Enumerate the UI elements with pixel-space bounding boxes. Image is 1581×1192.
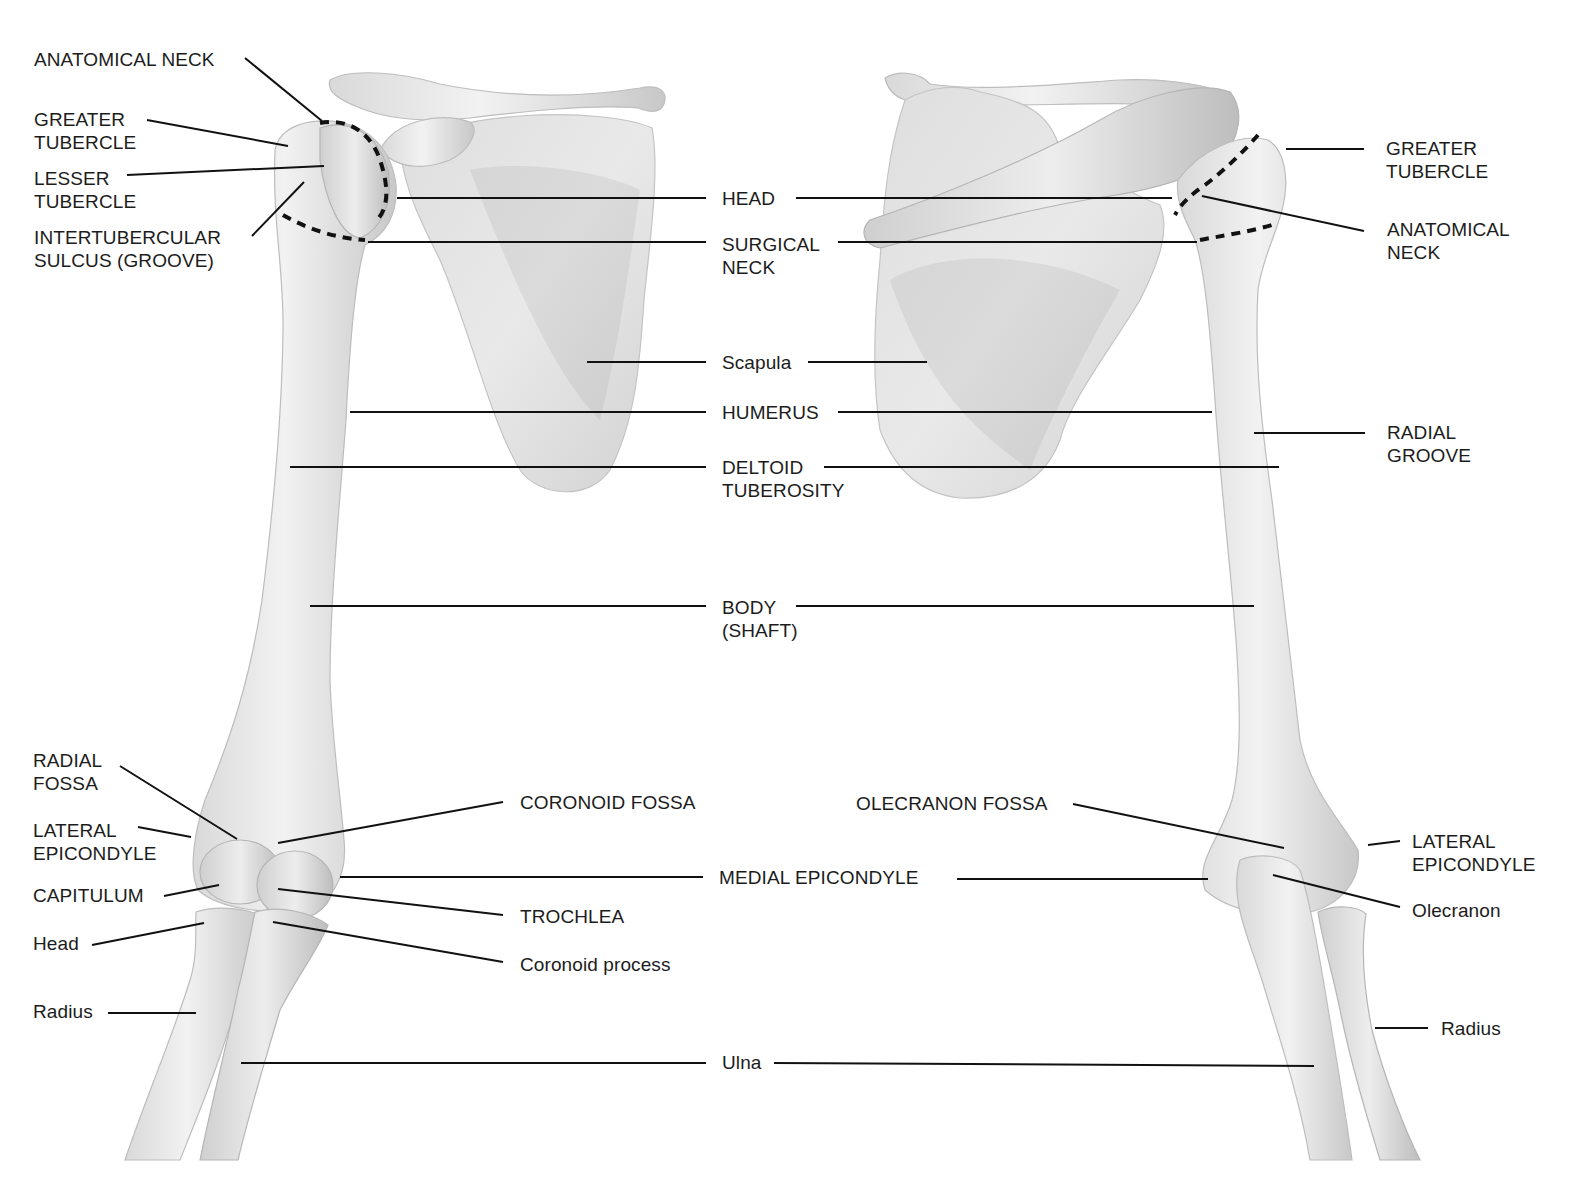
label-deltoid-tuberosity: DELTOID TUBEROSITY bbox=[722, 456, 844, 502]
label-radial-groove: RADIAL GROOVE bbox=[1387, 421, 1471, 467]
label-radial-fossa: RADIAL FOSSA bbox=[33, 749, 102, 795]
label-radius-right: Radius bbox=[1441, 1017, 1501, 1040]
label-radius-left: Radius bbox=[33, 1000, 93, 1023]
left-clavicle bbox=[329, 73, 665, 120]
right-arm-posterior bbox=[864, 73, 1420, 1160]
label-greater-tubercle-left: GREATER TUBERCLE bbox=[34, 108, 136, 154]
label-lateral-epicondyle-left: LATERAL EPICONDYLE bbox=[33, 819, 156, 865]
right-humerus bbox=[1177, 138, 1358, 914]
label-coronoid-fossa: CORONOID FOSSA bbox=[520, 791, 696, 814]
label-anatomical-neck-left: ANATOMICAL NECK bbox=[34, 48, 215, 71]
left-trochlea bbox=[257, 851, 333, 919]
label-head: HEAD bbox=[722, 187, 775, 210]
label-anatomical-neck-right: ANATOMICAL NECK bbox=[1387, 218, 1510, 264]
label-olecranon: Olecranon bbox=[1412, 899, 1501, 922]
label-trochlea: TROCHLEA bbox=[520, 905, 624, 928]
label-coronoid-process: Coronoid process bbox=[520, 953, 671, 976]
label-capitulum: CAPITULUM bbox=[33, 884, 144, 907]
label-scapula: Scapula bbox=[722, 351, 791, 374]
anatomy-diagram: ANATOMICAL NECK GREATER TUBERCLE LESSER … bbox=[0, 0, 1581, 1192]
label-ulna: Ulna bbox=[722, 1051, 761, 1074]
left-humerus bbox=[193, 121, 396, 911]
label-greater-tubercle-right: GREATER TUBERCLE bbox=[1386, 137, 1488, 183]
label-lateral-epicondyle-right: LATERAL EPICONDYLE bbox=[1412, 830, 1535, 876]
label-lesser-tubercle: LESSER TUBERCLE bbox=[34, 167, 136, 213]
label-medial-epicondyle: MEDIAL EPICONDYLE bbox=[719, 866, 919, 889]
label-humerus: HUMERUS bbox=[722, 401, 819, 424]
label-body-shaft: BODY (SHAFT) bbox=[722, 596, 798, 642]
label-radius-head: Head bbox=[33, 932, 79, 955]
label-intertubercular-sulcus: INTERTUBERCULAR SULCUS (GROOVE) bbox=[34, 226, 221, 272]
label-olecranon-fossa: OLECRANON FOSSA bbox=[856, 792, 1048, 815]
label-surgical-neck: SURGICAL NECK bbox=[722, 233, 820, 279]
